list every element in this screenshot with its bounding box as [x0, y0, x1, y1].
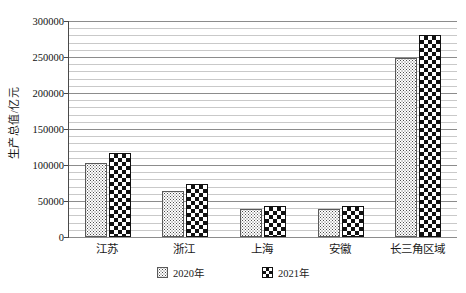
legend-entry-2021年[interactable]: 2021年 [262, 265, 309, 280]
x-axis-tick-label: 浙江 [173, 240, 195, 256]
y-axis-tickmark [64, 237, 69, 238]
y-axis-tick-label: 50000 [38, 196, 64, 207]
bar-series-container [69, 21, 457, 237]
y-axis-tick-label: 300000 [33, 16, 65, 27]
x-axis-tick-label: 上海 [251, 240, 273, 256]
plot-area [68, 21, 457, 238]
bar-江苏-2020年 [85, 163, 107, 237]
legend-swatch-icon [157, 267, 168, 278]
bar-浙江-2020年 [162, 191, 184, 238]
bar-group [85, 21, 131, 237]
y-axis-tick-label: 200000 [33, 88, 65, 99]
bar-江苏-2021年 [109, 153, 131, 237]
bar-浙江-2021年 [186, 184, 208, 237]
bar-group [395, 21, 441, 237]
y-axis-tick-label: 100000 [33, 160, 65, 171]
x-axis-tick-label: 江苏 [96, 240, 118, 256]
x-axis-tick-label: 安徽 [329, 240, 351, 256]
bar-长三角区域-2020年 [395, 58, 417, 237]
bar-group [240, 21, 286, 237]
bar-上海-2021年 [264, 206, 286, 237]
bar-长三角区域-2021年 [419, 35, 441, 237]
y-axis-tick-label: 250000 [33, 52, 65, 63]
bar-chart-figure: 生产总值/亿元 05000010000015000020000025000030… [0, 0, 466, 293]
bar-安徽-2020年 [318, 209, 340, 237]
y-axis-tick-labels: 050000100000150000200000250000300000 [20, 21, 68, 237]
y-axis-title-label: 生产总值/亿元 [5, 86, 21, 159]
legend-label: 2020年 [173, 265, 204, 280]
legend-entry-2020年[interactable]: 2020年 [157, 265, 204, 280]
x-axis-tick-labels: 江苏浙江上海安徽长三角区域 [68, 240, 456, 260]
gridline-major [69, 237, 457, 238]
bar-group [318, 21, 364, 237]
legend-label: 2021年 [278, 265, 309, 280]
bar-上海-2020年 [240, 209, 262, 237]
bar-group [162, 21, 208, 237]
legend-swatch-icon [262, 267, 273, 278]
chart-legend: 2020年2021年 [0, 265, 466, 280]
y-axis-tick-label: 150000 [33, 124, 65, 135]
x-axis-tick-label: 长三角区域 [390, 240, 445, 256]
bar-安徽-2021年 [342, 206, 364, 237]
